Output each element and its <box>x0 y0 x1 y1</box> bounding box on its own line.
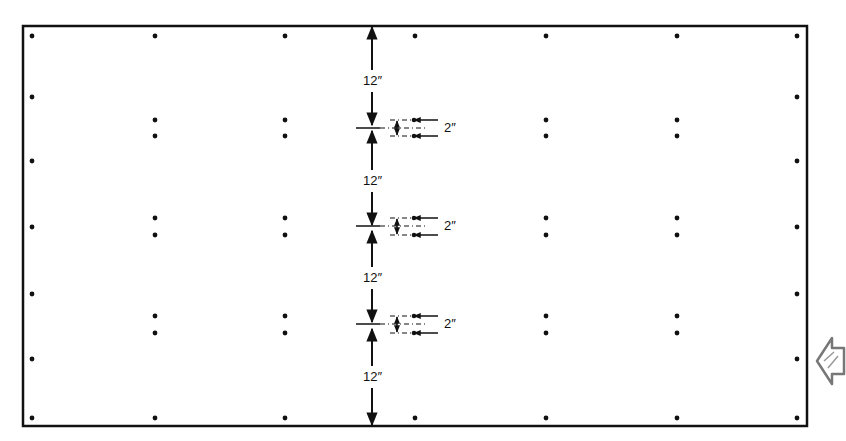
edge-fastener-dot <box>413 416 418 421</box>
field-fastener-dot <box>283 134 288 139</box>
field-fastener-dot <box>153 314 158 319</box>
edge-fastener-dot <box>413 34 418 39</box>
next-page-arrow-icon[interactable] <box>814 334 846 388</box>
edge-fastener-dot <box>795 357 800 362</box>
edge-fastener-dot <box>795 416 800 421</box>
dimension-label-12in: 12″ <box>362 370 383 384</box>
field-fastener-dot <box>675 314 680 319</box>
field-fastener-dot <box>675 331 680 336</box>
edge-fastener-dot <box>30 292 35 297</box>
field-fastener-dot <box>544 216 549 221</box>
dimension-label-12in: 12″ <box>362 174 383 188</box>
edge-fastener-dot <box>30 357 35 362</box>
edge-fastener-dot <box>153 416 158 421</box>
field-fastener-dot <box>544 331 549 336</box>
field-fastener-dot <box>153 118 158 123</box>
field-fastener-dot <box>153 331 158 336</box>
edge-fastener-dot <box>795 34 800 39</box>
field-fastener-dot <box>675 216 680 221</box>
field-fastener-dot <box>283 216 288 221</box>
edge-fastener-dot <box>795 292 800 297</box>
field-fastener-dot <box>544 233 549 238</box>
field-fastener-dot <box>544 134 549 139</box>
field-fastener-dot <box>153 233 158 238</box>
field-fastener-dot <box>675 134 680 139</box>
edge-fastener-dot <box>153 34 158 39</box>
field-fastener-dot <box>544 118 549 123</box>
edge-fastener-dot <box>283 416 288 421</box>
edge-fastener-dot <box>283 34 288 39</box>
edge-fastener-dot <box>795 225 800 230</box>
edge-fastener-dot <box>675 34 680 39</box>
field-fastener-dot <box>153 216 158 221</box>
edge-fastener-dot <box>795 159 800 164</box>
field-fastener-dot <box>544 314 549 319</box>
field-fastener-dot <box>283 118 288 123</box>
edge-fastener-dot <box>30 416 35 421</box>
panel-border <box>23 26 807 426</box>
edge-fastener-dot <box>544 416 549 421</box>
edge-fastener-dot <box>675 416 680 421</box>
field-fastener-dot <box>675 118 680 123</box>
spacing-callout <box>356 216 438 238</box>
dimension-label-12in: 12″ <box>362 74 383 88</box>
edge-fastener-dot <box>30 225 35 230</box>
edge-fastener-dot <box>30 95 35 100</box>
panel-outline <box>23 26 807 426</box>
field-fastener-dot <box>283 233 288 238</box>
spacing-label-2in: 2″ <box>443 317 457 331</box>
field-fastener-dot <box>283 331 288 336</box>
field-fastener-dot <box>283 314 288 319</box>
edge-fastener-dot <box>30 159 35 164</box>
field-fastener-dot <box>153 134 158 139</box>
spacing-callout <box>356 118 438 139</box>
spacing-label-2in: 2″ <box>443 121 457 135</box>
spacing-callout <box>356 314 438 336</box>
field-fastener-dot <box>675 233 680 238</box>
edge-fastener-dot <box>795 95 800 100</box>
edge-fastener-dot <box>30 34 35 39</box>
fastener-dots <box>30 34 800 421</box>
dimension-label-12in: 12″ <box>362 271 383 285</box>
two-inch-spacing-callouts <box>356 118 438 336</box>
spacing-label-2in: 2″ <box>443 219 457 233</box>
edge-fastener-dot <box>544 34 549 39</box>
